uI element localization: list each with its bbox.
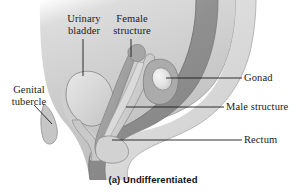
figure-caption: (a) Undifferentiated — [0, 174, 306, 185]
anatomy-figure: Urinary bladder Female structure Genital… — [0, 0, 306, 194]
label-gonad: Gonad — [244, 72, 302, 84]
genital-tubercle-shape — [41, 104, 57, 144]
label-genital-tubercle: Genital tubercle — [2, 84, 56, 107]
label-urinary-bladder: Urinary bladder — [58, 13, 110, 36]
label-female-structure: Female structure — [104, 13, 160, 36]
genital-tubercle-structure — [41, 104, 57, 144]
label-male-structure: Male structure — [226, 101, 304, 113]
gonad-structure — [143, 59, 178, 104]
label-rectum: Rectum — [244, 134, 302, 146]
